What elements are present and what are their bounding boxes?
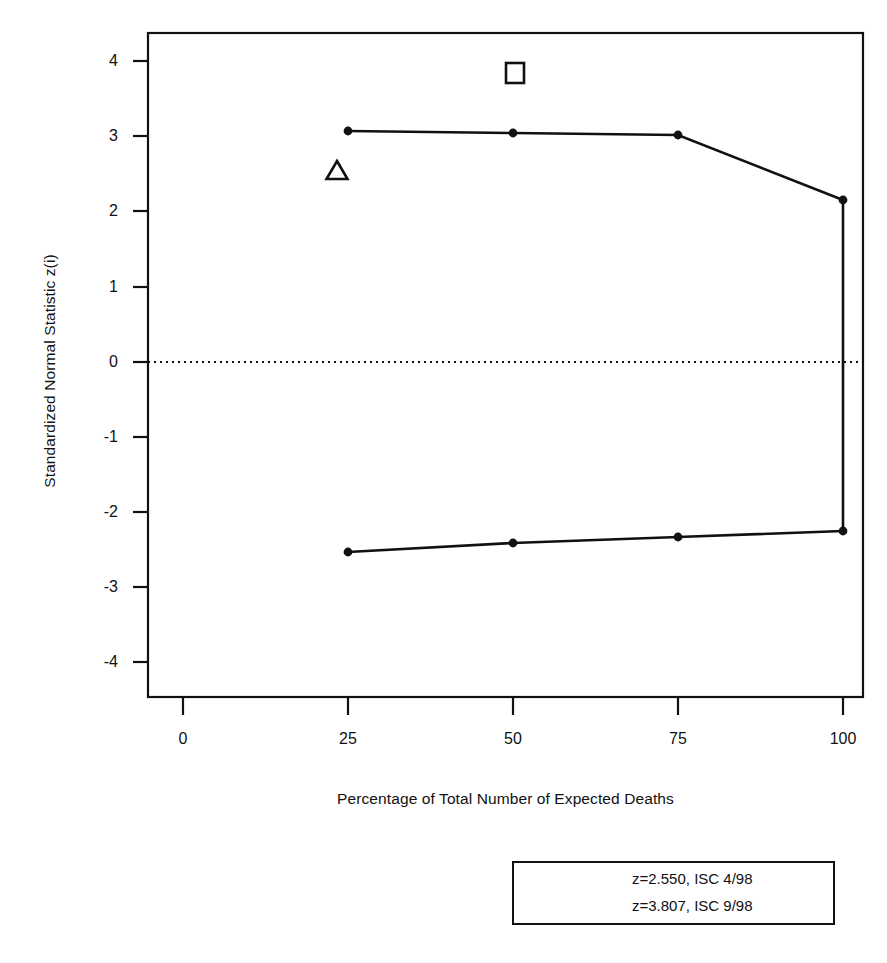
chart-legend: z=2.550, ISC 4/98 z=3.807, ISC 9/98 [512, 861, 835, 925]
x-tick-label: 100 [813, 731, 873, 747]
y-tick-label: -1 [78, 429, 118, 445]
y-axis-ticks [133, 61, 148, 662]
legend-entry-label: z=2.550, ISC 4/98 [632, 870, 753, 887]
chart-page: 4 3 2 1 0 -1 -2 -3 -4 0 25 50 75 100 Sta… [0, 0, 887, 963]
y-tick-label: 4 [78, 53, 118, 69]
y-tick-label: 1 [78, 279, 118, 295]
y-tick-label: -3 [78, 579, 118, 595]
sequential-boundary-chart: 4 3 2 1 0 -1 -2 -3 -4 0 25 50 75 100 Sta… [0, 0, 887, 963]
upper-boundary-line [348, 131, 843, 200]
y-tick-label: 0 [78, 354, 118, 370]
x-tick-label: 25 [318, 731, 378, 747]
y-tick-label: -4 [78, 654, 118, 670]
lower-boundary-markers [344, 527, 848, 557]
legend-entry: z=2.550, ISC 4/98 [514, 867, 833, 893]
x-tick-label: 0 [153, 731, 213, 747]
y-tick-label: 2 [78, 203, 118, 219]
x-tick-label: 50 [483, 731, 543, 747]
legend-entry-label: z=3.807, ISC 9/98 [632, 897, 753, 914]
y-tick-label: 3 [78, 128, 118, 144]
y-axis-title: Standardized Normal Statistic z(i) [41, 161, 59, 581]
x-axis-ticks [183, 697, 843, 715]
isc-4-98-triangle-marker [327, 161, 348, 179]
lower-boundary-line [348, 531, 843, 552]
plot-canvas [0, 0, 887, 963]
legend-entry: z=3.807, ISC 9/98 [514, 894, 833, 920]
y-tick-label: -2 [78, 504, 118, 520]
x-axis-title: Percentage of Total Number of Expected D… [148, 790, 863, 808]
upper-boundary-markers [344, 127, 848, 205]
isc-9-98-square-marker [506, 63, 524, 83]
x-tick-label: 75 [648, 731, 708, 747]
